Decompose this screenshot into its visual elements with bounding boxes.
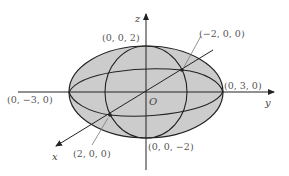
y-axis-label: y (264, 97, 271, 108)
label-x-neg: (−2, 0, 0) (199, 28, 245, 39)
point-x-neg-dot (180, 68, 184, 72)
origin-label: O (149, 96, 157, 107)
label-z-bottom: (0, 0, −2) (148, 141, 194, 152)
z-axis-label: z (134, 13, 141, 24)
label-y-neg: (0, −3, 0) (7, 94, 53, 105)
point-x-pos-dot (108, 113, 112, 117)
x-axis-label: x (52, 151, 58, 162)
ellipsoid-diagram: z y x O (0, 0, 2) (0, 0, −2) (0, 3, 0) (… (0, 0, 289, 176)
label-x-pos: (2, 0, 0) (73, 148, 111, 159)
label-y-pos: (0, 3, 0) (224, 80, 262, 91)
label-z-top: (0, 0, 2) (102, 32, 140, 43)
